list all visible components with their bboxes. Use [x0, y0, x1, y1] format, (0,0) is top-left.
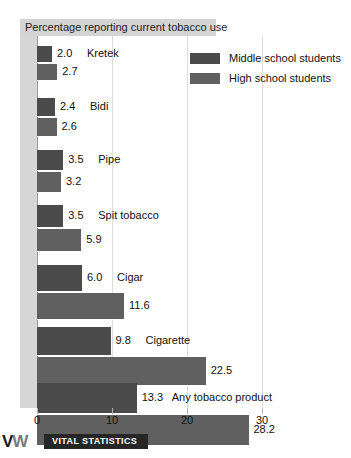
x-tick-label: 10	[106, 415, 118, 426]
category-label: Kretek	[87, 48, 119, 59]
legend-label: Middle school students	[229, 52, 341, 64]
bar-value-label: 9.8	[116, 335, 131, 346]
x-axis-ticks: 0102030	[20, 408, 330, 428]
bar-group: 6.011.6Cigar	[37, 265, 330, 319]
category-label: Spit tobacco	[98, 210, 159, 221]
category-label: Any tobacco product	[172, 392, 272, 403]
bar-value-label: 2.0	[57, 48, 72, 59]
bar-high-school	[37, 172, 61, 192]
plot-area: 2.02.7Kretek2.42.6Bidi3.53.2Pipe3.55.9Sp…	[20, 36, 330, 408]
bar-middle-school	[37, 265, 82, 291]
bar-value-label: 3.5	[68, 210, 83, 221]
bar-middle-school	[37, 46, 52, 62]
x-tick-label: 0	[34, 415, 40, 426]
bar-middle-school	[37, 327, 111, 355]
bar-middle-school	[37, 205, 63, 227]
vital-statistics-logo-icon: VW	[2, 433, 27, 450]
chart-title-band: Percentage reporting current tobacco use	[20, 19, 216, 36]
footer-band: VITAL STATISTICS	[44, 434, 148, 449]
bar-value-label: 6.0	[87, 272, 102, 283]
x-tick-label: 20	[181, 415, 193, 426]
bar-middle-school	[37, 98, 55, 116]
bar-group: 3.55.9Spit tobacco	[37, 205, 330, 251]
bar-value-label: 2.7	[62, 66, 77, 77]
bar-group: 9.822.5Cigarette	[37, 327, 330, 385]
bar-high-school	[37, 118, 57, 136]
bar-high-school	[37, 229, 81, 251]
bar-value-label: 3.2	[66, 176, 81, 187]
category-label: Bidi	[90, 101, 108, 112]
bar-value-label: 13.3	[142, 392, 163, 403]
logo-letter-w: W	[12, 432, 27, 451]
bar-high-school	[37, 293, 124, 319]
bar-high-school	[37, 357, 206, 385]
bar-value-label: 5.9	[86, 234, 101, 245]
chart-title: Percentage reporting current tobacco use	[25, 22, 227, 33]
legend-swatch-hs	[190, 73, 220, 84]
legend-label: High school students	[229, 72, 331, 84]
category-label: Cigar	[117, 272, 143, 283]
logo-letter-v: V	[2, 432, 12, 451]
bar-middle-school	[37, 150, 63, 170]
bar-value-label: 3.5	[68, 154, 83, 165]
bar-value-label: 2.4	[60, 101, 75, 112]
axis-gutter	[20, 36, 37, 408]
bar-group: 3.53.2Pipe	[37, 150, 330, 192]
category-label: Pipe	[98, 154, 120, 165]
bar-high-school	[37, 64, 57, 80]
x-tick-label: 30	[256, 415, 268, 426]
bar-value-label: 11.6	[129, 300, 150, 311]
footer-band-text: VITAL STATISTICS	[52, 437, 137, 446]
legend-swatch-ms	[190, 53, 220, 64]
tobacco-use-chart: Percentage reporting current tobacco use…	[0, 0, 351, 458]
category-label: Cigarette	[146, 335, 191, 346]
bar-value-label: 22.5	[211, 365, 232, 376]
bar-value-label: 2.6	[62, 121, 77, 132]
bar-group: 2.42.6Bidi	[37, 98, 330, 136]
